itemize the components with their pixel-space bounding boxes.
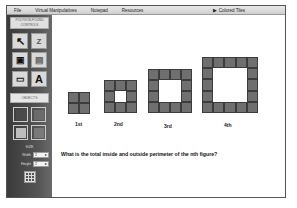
menu-virtual-manipulatives[interactable]: Virtual Manipulatives (28, 8, 83, 13)
controls-header: POLYGON-FOUND CONTROLS (10, 17, 49, 29)
width-label: Width (22, 153, 31, 157)
question-text: What is the total inside and outside per… (61, 151, 217, 157)
stepper-arrow-icon[interactable]: ▸ (45, 153, 47, 157)
paint-bucket-icon[interactable]: ▣ (12, 52, 28, 68)
figure-2[interactable] (104, 80, 137, 113)
height-field: Height 2▸ (7, 161, 49, 167)
select-arrow-icon[interactable]: ↖ (12, 33, 28, 49)
grid-icon[interactable] (24, 171, 36, 183)
app-window: File Virtual Manipulatives Notepad Resou… (6, 5, 286, 198)
size-label: SIZE (7, 145, 52, 149)
menu-resources[interactable]: Resources (115, 8, 151, 13)
swatch-light[interactable] (13, 125, 28, 140)
figure-4-label: 4th (224, 122, 232, 128)
menu-bar: File Virtual Manipulatives Notepad Resou… (7, 6, 285, 15)
zoom-icon[interactable]: Z (31, 33, 47, 49)
color-swatches (7, 107, 52, 140)
height-label: Height (21, 162, 31, 166)
figure-2-label: 2nd (114, 121, 123, 127)
swatch-dark[interactable] (13, 107, 28, 122)
figure-3-label: 3rd (164, 123, 172, 129)
swatch-gray[interactable] (31, 125, 46, 140)
swatch-medium[interactable] (31, 107, 46, 122)
workspace-canvas[interactable]: 1st 2nd 3rd 4th What is the total inside… (53, 15, 285, 197)
width-field: Width 2▸ (7, 152, 49, 158)
menu-colored-tiles[interactable]: ▶ Colored Tiles (206, 8, 285, 13)
tool-sidebar: POLYGON-FOUND CONTROLS ↖ Z ▣ ▤ ▭ A OBJEC… (7, 15, 52, 197)
menu-file[interactable]: File (7, 8, 28, 13)
menu-notepad[interactable]: Notepad (84, 8, 115, 13)
stamp-icon[interactable]: ▤ (31, 52, 47, 68)
height-stepper[interactable]: 2▸ (33, 161, 49, 167)
figure-3[interactable] (148, 69, 192, 113)
figure-1-label: 1st (75, 121, 82, 127)
stepper-arrow-icon[interactable]: ▸ (45, 162, 47, 166)
width-stepper[interactable]: 2▸ (33, 152, 49, 158)
tool-grid: ↖ Z ▣ ▤ ▭ A (7, 33, 52, 87)
text-tool-icon[interactable]: A (31, 71, 47, 87)
figure-4[interactable] (202, 57, 258, 113)
eraser-icon[interactable]: ▭ (12, 71, 28, 87)
figure-1[interactable] (68, 92, 90, 114)
objects-header: OBJECTS (10, 93, 49, 103)
